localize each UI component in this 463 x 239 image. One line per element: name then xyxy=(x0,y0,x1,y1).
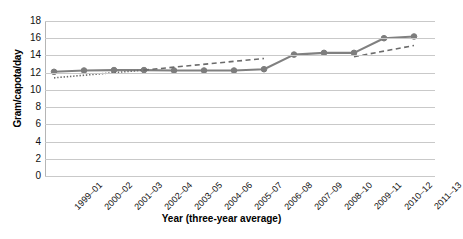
x-tick-label-12: 2011–13 xyxy=(432,180,463,211)
y-tick-label-6: 6 xyxy=(13,119,41,129)
data-point-7 xyxy=(261,66,267,72)
gridline-14 xyxy=(45,55,435,56)
x-tick-label-1: 2000–02 xyxy=(102,180,134,212)
gridline-2 xyxy=(45,159,435,160)
y-tick-label-8: 8 xyxy=(13,102,41,112)
y-tick-label-10: 10 xyxy=(13,85,41,95)
x-tick-label-8: 2007–09 xyxy=(312,180,344,212)
x-tick-label-0: 1999–01 xyxy=(72,180,104,212)
gridline-10 xyxy=(45,90,435,91)
x-tick-label-7: 2006–08 xyxy=(282,180,314,212)
y-tick-label-2: 2 xyxy=(13,154,41,164)
gridline-8 xyxy=(45,107,435,108)
x-tick-label-4: 2003–05 xyxy=(192,180,224,212)
x-tick-label-2: 2001–03 xyxy=(132,180,164,212)
y-tick-label-14: 14 xyxy=(13,50,41,60)
plot-area xyxy=(45,21,435,176)
x-tick-label-11: 2010–12 xyxy=(402,180,434,212)
x-tick-label-3: 2002–04 xyxy=(162,180,194,212)
x-axis-title: Year (three-year average) xyxy=(0,213,443,224)
x-tick-label-9: 2008–10 xyxy=(342,180,374,212)
gridline-4 xyxy=(45,142,435,143)
y-tick-label-4: 4 xyxy=(13,137,41,147)
y-tick-label-18: 18 xyxy=(13,16,41,26)
gridline-12 xyxy=(45,73,435,74)
x-tick-label-10: 2009–11 xyxy=(372,180,403,211)
gridline-16 xyxy=(45,38,435,39)
y-axis-tick-labels: 181614121086420 xyxy=(9,21,41,176)
gridline-6 xyxy=(45,124,435,125)
main-series-line xyxy=(54,37,414,72)
series-layer xyxy=(45,21,435,176)
y-tick-label-16: 16 xyxy=(13,33,41,43)
x-tick-label-5: 2004–06 xyxy=(222,180,254,212)
x-tick-label-6: 2005–07 xyxy=(252,180,284,212)
y-tick-label-12: 12 xyxy=(13,68,41,78)
gridline-18 xyxy=(45,21,435,22)
gridline-0 xyxy=(45,176,435,177)
